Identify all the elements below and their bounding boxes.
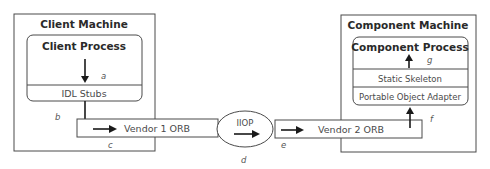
static-skeleton-label: Static Skeleton	[378, 74, 442, 84]
component-machine-title: Component Machine	[348, 19, 469, 31]
vendor1-orb: Vendor 1 ORB	[77, 119, 218, 137]
client-machine-title: Client Machine	[40, 18, 128, 30]
step-label-d: d	[241, 155, 247, 165]
step-label-b: b	[55, 112, 60, 122]
corba-iiop-diagram: Client Machine Client Process IDL Stubs …	[0, 0, 490, 169]
step-label-a: a	[101, 71, 106, 81]
portable-object-adapter-label: Portable Object Adapter	[359, 92, 461, 102]
step-label-c: c	[108, 140, 113, 150]
component-process-title: Component Process	[351, 41, 468, 53]
iiop-label: IIOP	[237, 118, 254, 128]
step-label-g: g	[427, 55, 433, 65]
iiop-protocol: IIOP	[217, 111, 273, 147]
client-process-title: Client Process	[42, 40, 126, 52]
vendor2-orb-label: Vendor 2 ORB	[318, 124, 384, 135]
vendor2-orb: Vendor 2 ORB	[275, 120, 422, 138]
vendor1-orb-label: Vendor 1 ORB	[124, 123, 190, 134]
idl-stubs-label: IDL Stubs	[61, 88, 106, 99]
iiop-ellipse	[217, 111, 273, 147]
step-label-e: e	[281, 140, 286, 150]
